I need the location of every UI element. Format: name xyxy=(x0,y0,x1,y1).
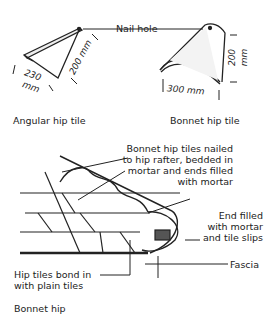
end-filled-label: End filled with mortar and tile slips xyxy=(203,210,263,243)
bonnet-height-unit: mm xyxy=(239,49,250,67)
bonnet-hip-tile-caption: Bonnet hip tile xyxy=(170,115,240,126)
fascia-label: Fascia xyxy=(230,259,259,270)
bonnet-hip-caption: Bonnet hip xyxy=(14,303,66,314)
angular-hip-tile-caption: Angular hip tile xyxy=(13,115,86,126)
bonnet-nailed-label: Bonnet hip tiles nailed to hip rafter, b… xyxy=(123,143,233,187)
hip-bond-label: Hip tiles bond in with plain tiles xyxy=(14,269,91,291)
nail-hole-label: Nail hole xyxy=(116,23,158,34)
bonnet-height-dim: 200 xyxy=(227,49,238,66)
